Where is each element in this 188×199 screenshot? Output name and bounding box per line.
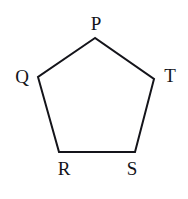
vertex-label-s-text: S [127,159,138,178]
vertex-label-p-text: P [91,14,102,33]
pentagon-figure: P Q R S T [0,0,188,199]
vertex-label-q-text: Q [15,67,29,86]
vertex-label-r-text: R [58,159,71,178]
vertex-label-p: P [86,14,106,33]
pentagon-outline [38,38,154,152]
vertex-label-r: R [54,159,74,178]
vertex-label-s: S [122,159,142,178]
vertex-label-t: T [160,66,180,85]
vertex-label-q: Q [12,67,32,86]
vertex-label-t-text: T [164,66,176,85]
